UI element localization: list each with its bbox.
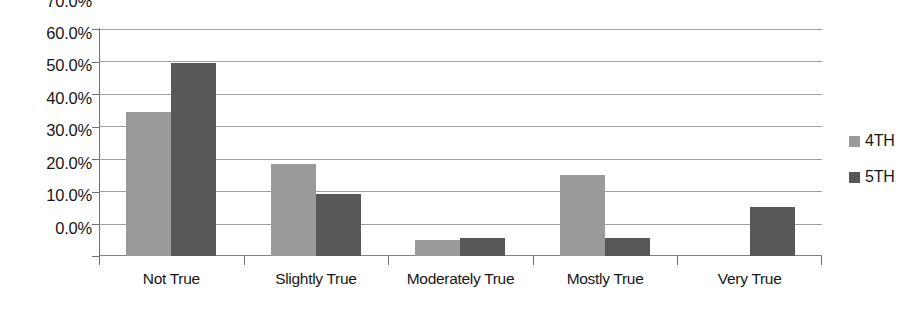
bar-chart: 70.0% 60.0% 50.0% 40.0% 30.0% 20.0% 10.0… [0,0,923,317]
x-axis-tick [821,256,822,265]
bar-4th-mostly-true [560,175,605,256]
bar-5th-moderately-true [460,238,505,256]
y-axis-tick-label: 20.0% [46,154,92,173]
x-axis-labels: Not True Slightly True Moderately True M… [99,270,822,296]
x-axis-tick [388,256,389,265]
legend-swatch-icon [849,172,860,183]
bar-group-mostly-true [533,29,678,256]
y-axis-tick-label: 70.0% [46,0,92,11]
bar-group-very-true [677,29,822,256]
y-axis-tick-label: 10.0% [46,186,92,205]
bar-4th-not-true [126,112,171,256]
bar-5th-very-true [750,207,795,256]
y-axis-tick-label: 60.0% [46,24,92,43]
bar-5th-not-true [171,63,216,256]
x-axis-category-label: Very True [677,270,822,296]
bar-group-slightly-true [244,29,389,256]
x-axis-category-label: Slightly True [244,270,389,296]
y-axis-tick-label: 30.0% [46,121,92,140]
legend-label: 4TH [865,132,895,150]
bar-groups [99,29,822,256]
bar-4th-slightly-true [271,164,316,256]
legend-label: 5TH [865,168,895,186]
legend: 4TH 5TH [849,130,919,202]
x-axis-tick [677,256,678,265]
y-axis-tick-label: 50.0% [46,56,92,75]
legend-item-4th: 4TH [849,130,919,152]
x-axis-category-label: Not True [99,270,244,296]
bar-group-not-true [99,29,244,256]
bar-4th-moderately-true [415,240,460,256]
y-axis-tick-label: 0.0% [55,219,92,238]
y-axis-tick-label: 40.0% [46,89,92,108]
bar-5th-mostly-true [605,238,650,256]
bar-5th-slightly-true [316,194,361,256]
y-axis-labels: 70.0% 60.0% 50.0% 40.0% 30.0% 20.0% 10.0… [8,0,92,262]
x-axis-tick [99,256,100,265]
bar-group-moderately-true [388,29,533,256]
x-axis-category-label: Moderately True [388,270,533,296]
x-axis-tick [244,256,245,265]
x-axis-category-label: Mostly True [533,270,678,296]
legend-swatch-icon [849,136,860,147]
legend-item-5th: 5TH [849,166,919,188]
x-axis-tick [533,256,534,265]
x-axis-ticks [99,256,822,265]
